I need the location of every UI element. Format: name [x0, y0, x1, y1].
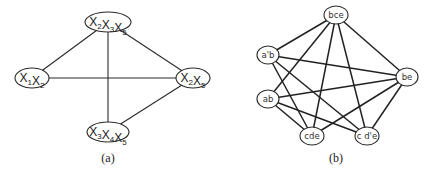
- node-label: ab: [263, 94, 274, 104]
- node-ab: ab: [257, 90, 279, 108]
- node-label: bce: [328, 10, 343, 20]
- graph-a: X2X3X5X1X2X2X5X3X4X5 (a): [15, 12, 210, 165]
- edge-apb-cdpe: [268, 55, 367, 136]
- node-cde: cde: [300, 127, 324, 145]
- node-n3: X2X5: [176, 68, 210, 90]
- node-apb: a'b: [257, 46, 279, 64]
- graph-b-edges: [268, 15, 407, 136]
- graph-b: bcea'bbeabcdec d'e (b): [257, 6, 418, 165]
- node-n2: X1X2: [15, 68, 49, 90]
- node-label: c d'e: [357, 131, 377, 141]
- graph-a-nodes: X2X3X5X1X2X2X5X3X4X5: [15, 12, 210, 147]
- node-bce: bce: [324, 6, 348, 24]
- edge-bce-cde: [312, 15, 336, 136]
- caption-b: (b): [329, 151, 343, 165]
- node-label: be: [402, 72, 413, 82]
- node-be: be: [396, 68, 418, 86]
- caption-a: (a): [101, 151, 114, 165]
- graph-a-edges: [32, 22, 193, 132]
- edge-be-cde: [312, 77, 407, 136]
- diagram-canvas: X2X3X5X1X2X2X5X3X4X5 (a) bcea'bbeabcdec …: [0, 0, 435, 175]
- edge-bce-apb: [268, 15, 336, 55]
- edge-ab-be: [268, 77, 407, 99]
- node-n4: X3X4X5: [87, 122, 129, 147]
- edge-be-cdpe: [367, 77, 407, 136]
- node-label: cde: [304, 131, 319, 141]
- node-label: a'b: [262, 50, 275, 60]
- node-cdpe: c d'e: [355, 127, 379, 145]
